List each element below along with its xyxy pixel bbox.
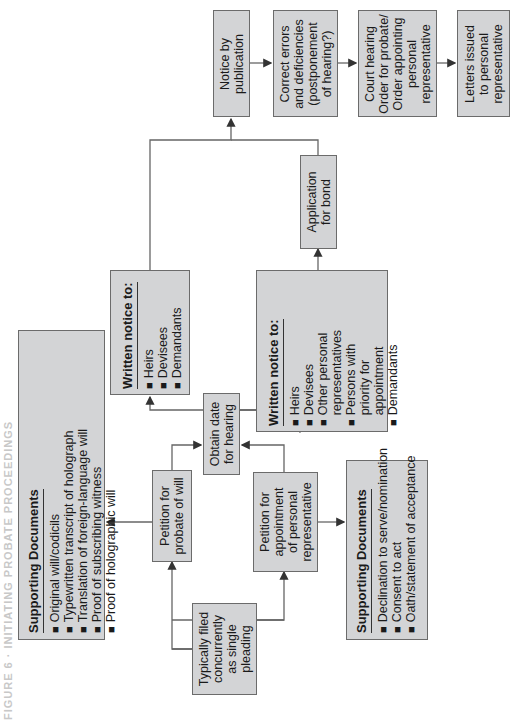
box-line: for hearing	[222, 402, 236, 467]
list-item: Proof of holographic will	[104, 429, 118, 633]
list-item: Declination to serve/nomination	[376, 448, 390, 633]
application-bond-box: Application for bond	[300, 155, 337, 249]
box-line: Typically filed	[197, 612, 211, 686]
list-item: Proof of subscribing witness	[90, 429, 104, 633]
box-line: personal	[405, 14, 419, 113]
box-line: Obtain date	[208, 402, 222, 467]
box-line: of hearing?)	[320, 19, 334, 109]
box-line: as single	[225, 612, 239, 686]
box-line: appointment	[272, 482, 286, 561]
box-line: to personal	[477, 24, 491, 103]
obtain-date-box: Obtain date for hearing	[203, 393, 240, 475]
supporting-documents-header: Supporting Documents	[27, 489, 44, 633]
correct-errors-box: Correct errors and deficiencies (postpon…	[273, 10, 338, 117]
box-line: pleading	[239, 612, 253, 686]
letters-issued-box: Letters issued to personal representativ…	[457, 10, 510, 117]
list-item-continuation: representatives	[330, 319, 344, 426]
box-line: Order appointing	[391, 14, 405, 113]
list-item: Consent to act	[390, 448, 404, 633]
typically-filed-box: Typically filed concurrently as single p…	[192, 603, 257, 695]
list-item: Other personal	[316, 319, 330, 426]
box-line: concurrently	[211, 612, 225, 686]
list-item: Devisees	[156, 282, 170, 389]
box-line: Petition for	[158, 477, 172, 554]
supporting-documents-header: Supporting Documents	[355, 489, 372, 633]
written-notice-header: Written notice to:	[267, 319, 284, 426]
written-notice-representatives-box: Written notice to: Heirs Devisees Other …	[256, 270, 388, 432]
list-item-continuation: priority for	[358, 319, 372, 426]
supporting-documents-will-box: Supporting Documents Original will/codic…	[18, 330, 105, 640]
supporting-documents-appointment-box: Supporting Documents Declination to serv…	[346, 460, 428, 640]
petition-appointment-box: Petition for appointment of personal rep…	[253, 472, 318, 572]
list-item: Demandants	[170, 282, 184, 389]
list-item: Translation of foreign-language will	[76, 429, 90, 633]
list-item-continuation: appointment	[372, 319, 386, 426]
box-line: Letters issued	[463, 24, 477, 103]
list-item: Original will/codicils	[48, 429, 62, 633]
list-item: Oath/statement of acceptance	[404, 448, 418, 633]
notice-publication-box: Notice by publication	[213, 10, 250, 117]
list-item: Persons with	[344, 319, 358, 426]
box-line: for bond	[319, 171, 333, 232]
box-line: Order for probate/	[377, 14, 391, 113]
box-line: and deficiencies	[292, 19, 306, 109]
box-line: probate of will	[172, 477, 186, 554]
petition-probate-box: Petition for probate of will	[152, 470, 192, 562]
box-line: Petition for	[258, 482, 272, 561]
box-line: (postponement	[306, 19, 320, 109]
written-notice-header: Written notice to:	[121, 282, 138, 389]
written-notice-heirs-box: Written notice to: Heirs Devisees Demand…	[110, 270, 190, 395]
box-line: representative	[491, 24, 505, 103]
box-line: Notice by	[218, 34, 232, 94]
box-line: of personal	[286, 482, 300, 561]
list-item: Heirs	[142, 282, 156, 389]
box-line: Correct errors	[278, 19, 292, 109]
list-item: Demandants	[386, 319, 400, 426]
box-line: representative	[419, 14, 433, 113]
box-line: representative	[300, 482, 314, 561]
box-line: publication	[232, 34, 246, 94]
list-item: Heirs	[288, 319, 302, 426]
box-line: Application	[305, 171, 319, 232]
court-hearing-box: Court hearing Order for probate/ Order a…	[358, 10, 437, 117]
list-item: Typewritten transcript of holograph	[62, 429, 76, 633]
box-line: Court hearing	[363, 14, 377, 113]
list-item: Devisees	[302, 319, 316, 426]
